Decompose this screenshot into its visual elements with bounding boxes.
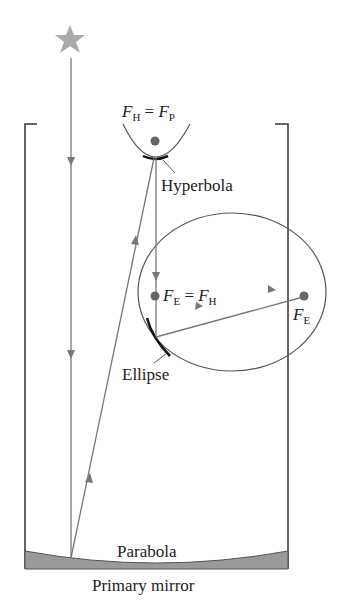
label-ellipse: Ellipse (122, 366, 169, 383)
label-fe-equals-fh: FE = FH (163, 287, 217, 304)
tube-right-wall (275, 124, 288, 569)
label-fh-equals-fp: FH = FP (122, 103, 175, 120)
star-icon (55, 25, 85, 53)
arrow-icons (67, 157, 276, 483)
focus-ellipse-near-dot (151, 292, 160, 301)
telescope-diagram (0, 0, 337, 616)
hyperbola-leader (163, 160, 175, 173)
label-far-fe: FE (293, 306, 310, 323)
tube-left-wall (25, 124, 37, 569)
label-primary-mirror: Primary mirror (92, 577, 194, 594)
label-parabola: Parabola (117, 543, 176, 560)
ellipse-mirror (147, 318, 170, 356)
ellipse-leader (154, 353, 167, 363)
light-rays (71, 58, 303, 558)
focus-hyperbola-dot (151, 137, 160, 146)
label-hyperbola: Hyperbola (161, 177, 233, 194)
focus-ellipse-far-dot (300, 292, 309, 301)
